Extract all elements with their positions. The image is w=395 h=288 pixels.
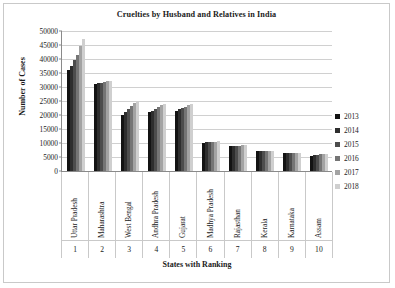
bar — [325, 154, 328, 171]
y-tick-label: 45000 — [40, 41, 58, 50]
bar — [217, 141, 220, 171]
x-category-label: Maharashtra — [97, 202, 106, 238]
bar — [163, 104, 166, 171]
legend-label: 2016 — [344, 154, 359, 163]
legend-item[interactable]: 2015 — [335, 137, 359, 151]
x-category-label: West Bengal — [124, 201, 133, 238]
legend-item[interactable]: 2017 — [335, 165, 359, 179]
x-rank-label: 4 — [143, 241, 170, 258]
x-category-cell: Assam — [306, 172, 333, 240]
y-tick-label: 25000 — [40, 97, 58, 106]
legend-label: 2014 — [344, 126, 359, 135]
y-tick-label: 5000 — [43, 153, 58, 162]
bar — [244, 145, 247, 171]
y-tick-label: 0 — [54, 167, 58, 176]
x-rank-label: 1 — [61, 241, 89, 258]
bar-group — [224, 31, 251, 171]
x-category-cell: Rajasthan — [225, 172, 252, 240]
y-tick-label: 30000 — [40, 83, 58, 92]
chart-frame: Cruelties by Husband and Relatives in In… — [3, 3, 390, 283]
x-category-label: Rajasthan — [232, 209, 241, 238]
bar — [136, 101, 139, 171]
legend-label: 2013 — [344, 112, 359, 121]
x-category-cell: Maharashtra — [89, 172, 116, 240]
bar — [190, 104, 193, 171]
x-category-label: Kerala — [259, 219, 268, 238]
legend-swatch-icon — [335, 184, 340, 189]
bar-group — [62, 31, 89, 171]
y-tick-label: 40000 — [40, 55, 58, 64]
y-tick-label: 10000 — [40, 139, 58, 148]
x-axis-title: States with Ranking — [61, 260, 333, 269]
x-category-cell: Uttar Pradesh — [61, 172, 89, 240]
x-axis-rank-labels: 12345678910 — [61, 240, 333, 258]
x-category-cell: Karnataka — [279, 172, 306, 240]
x-rank-label: 9 — [279, 241, 306, 258]
x-rank-label: 3 — [116, 241, 143, 258]
legend-swatch-icon — [335, 156, 340, 161]
y-tick-label: 15000 — [40, 125, 58, 134]
legend-swatch-icon — [335, 114, 340, 119]
legend-swatch-icon — [335, 142, 340, 147]
bar — [298, 153, 301, 171]
bar-group — [278, 31, 305, 171]
plot-area: 5000045000400003500030000250002000015000… — [61, 31, 332, 172]
bar-group — [143, 31, 170, 171]
bar-group — [170, 31, 197, 171]
y-tick-label: 20000 — [40, 111, 58, 120]
x-category-cell: Gujarat — [170, 172, 197, 240]
legend-label: 2017 — [344, 168, 359, 177]
legend-item[interactable]: 2016 — [335, 151, 359, 165]
bar — [82, 39, 85, 171]
legend-item[interactable]: 2013 — [335, 109, 359, 123]
legend-item[interactable]: 2014 — [335, 123, 359, 137]
x-rank-label: 2 — [89, 241, 116, 258]
y-tick-label: 35000 — [40, 69, 58, 78]
x-category-cell: Andhra Pradesh — [143, 172, 170, 240]
x-category-label: Karnataka — [286, 208, 295, 238]
legend-label: 2015 — [344, 140, 359, 149]
bar — [271, 151, 274, 171]
x-axis-category-labels: Uttar PradeshMaharashtraWest BengalAndhr… — [61, 172, 333, 240]
y-tick-label: 50000 — [40, 27, 58, 36]
legend-swatch-icon — [335, 128, 340, 133]
x-category-cell: Kerala — [252, 172, 279, 240]
bar-group — [197, 31, 224, 171]
bar-group — [305, 31, 332, 171]
chart-title: Cruelties by Husband and Relatives in In… — [4, 10, 389, 19]
x-category-label: Uttar Pradesh — [70, 198, 79, 238]
legend-label: 2018 — [344, 182, 359, 191]
x-category-label: Assam — [313, 218, 322, 238]
bar — [109, 81, 112, 171]
x-rank-label: 5 — [170, 241, 197, 258]
legend-item[interactable]: 2018 — [335, 179, 359, 193]
bar-group — [89, 31, 116, 171]
x-rank-label: 6 — [197, 241, 224, 258]
x-category-cell: West Bengal — [116, 172, 143, 240]
x-category-label: Gujarat — [178, 216, 187, 238]
bar-groups — [62, 31, 332, 171]
legend-swatch-icon — [335, 170, 340, 175]
x-rank-label: 8 — [252, 241, 279, 258]
x-rank-label: 7 — [225, 241, 252, 258]
legend: 201320142015201620172018 — [335, 109, 359, 193]
y-axis-title: Number of Cases — [18, 27, 27, 147]
x-category-label: Andhra Pradesh — [151, 191, 160, 238]
x-category-label: Madhya Pradesh — [205, 189, 214, 238]
bar-group — [116, 31, 143, 171]
x-rank-label: 10 — [306, 241, 333, 258]
bar-group — [251, 31, 278, 171]
x-category-cell: Madhya Pradesh — [197, 172, 224, 240]
